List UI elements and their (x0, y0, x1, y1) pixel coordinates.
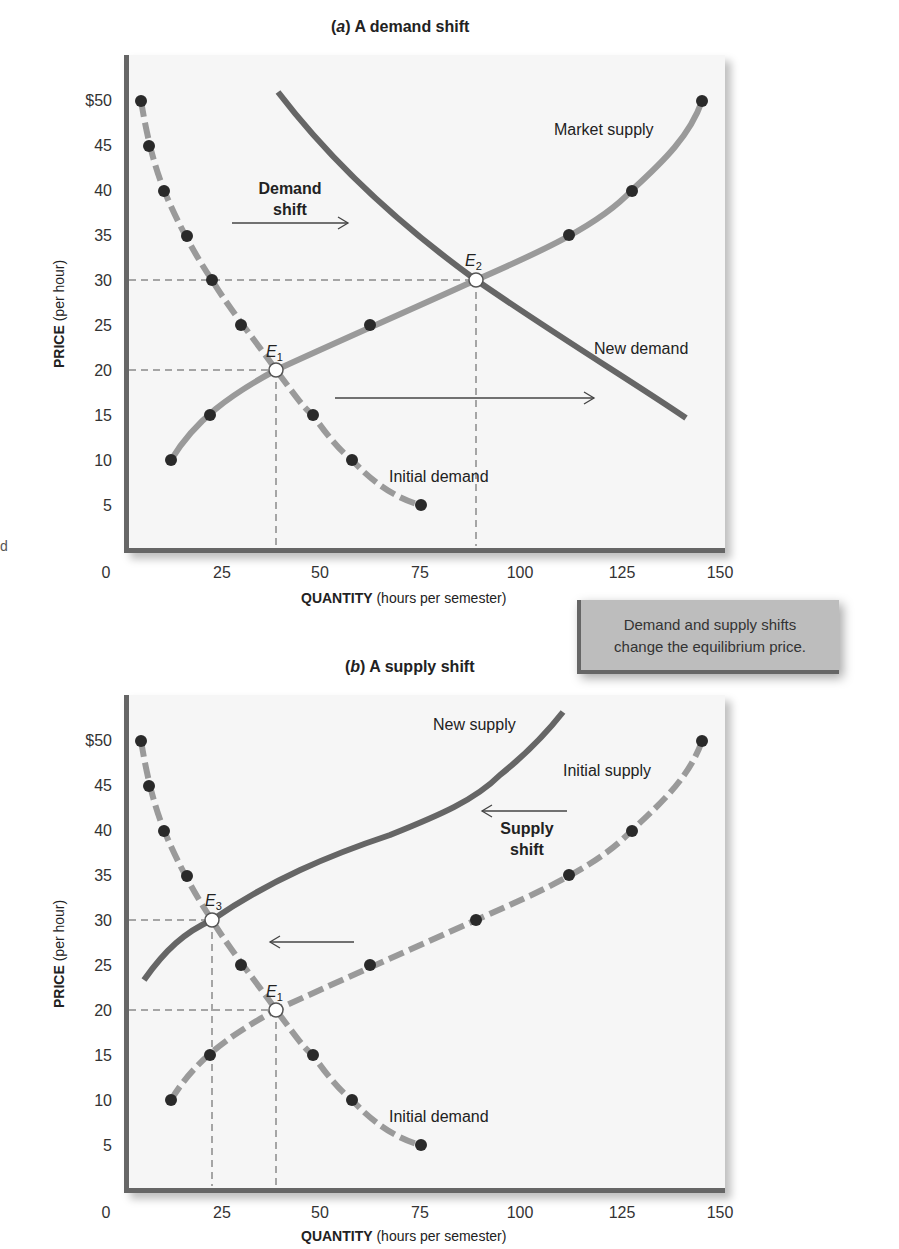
initial-supply-curve (171, 741, 702, 1100)
initial-supply-label: Initial supply (563, 762, 651, 780)
guide-lines (129, 920, 276, 1186)
chart-b-curves (0, 0, 899, 1249)
initial-demand-curve (141, 741, 421, 1145)
e1-label: E1 (266, 983, 283, 1003)
new-supply-label: New supply (433, 716, 516, 734)
equilibrium-e1-marker (269, 1003, 283, 1017)
initial-supply-points (165, 735, 708, 1106)
supply-shift-label: Supply shift (487, 818, 567, 860)
initial-demand-label: Initial demand (389, 1108, 489, 1126)
equilibrium-e3-marker (205, 913, 219, 927)
e3-label: E3 (205, 892, 222, 912)
